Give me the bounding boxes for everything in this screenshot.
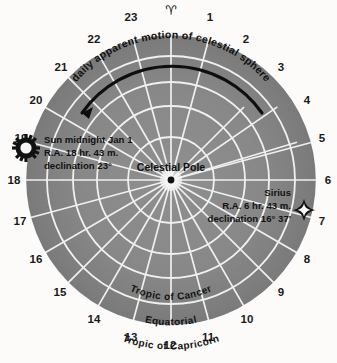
aries-symbol-icon: ♈ (165, 3, 177, 18)
hour-number: 9 (278, 286, 284, 298)
center-label: Celestial Pole (137, 161, 205, 173)
hour-number: 4 (304, 94, 311, 106)
hour-number: 17 (14, 215, 27, 227)
sirius-label-line2: R.A. 6 hr. 43 m. (222, 200, 291, 211)
hour-number: 7 (319, 215, 325, 227)
hour-number: 22 (88, 33, 101, 45)
hour-number: 13 (125, 331, 138, 343)
hour-number: 18 (8, 174, 21, 186)
sun-icon (12, 134, 40, 162)
hour-number: 10 (241, 313, 254, 325)
sirius-label-line1: Sirius (264, 187, 291, 198)
sun-label-line3: declination 23° (44, 160, 112, 171)
diagram-canvas: Celestial Pole daily apparent motion of … (0, 0, 337, 363)
hour-number: 3 (278, 61, 284, 73)
hour-number: 14 (88, 313, 101, 325)
sun-label-line1: Sun midnight Jan 1 (44, 134, 133, 145)
hour-number: 15 (54, 286, 67, 298)
hour-number: 1 (207, 11, 214, 23)
hour-number: 20 (30, 94, 43, 106)
hour-number: 5 (319, 132, 326, 144)
hour-number: 2 (243, 33, 249, 45)
hour-number: 21 (55, 61, 68, 73)
sirius-label-line3: declination 16° 37' (208, 213, 291, 224)
sun-label-line2: R.A. 18 hr. 43 m. (44, 147, 118, 158)
hour-number: 12 (164, 339, 177, 351)
celestial-sphere-diagram: Celestial Pole daily apparent motion of … (0, 0, 337, 363)
hour-number: 11 (202, 331, 215, 343)
hour-number: 8 (304, 253, 311, 265)
pole-dot (168, 177, 175, 184)
hour-number: 6 (325, 174, 331, 186)
hour-number: 23 (125, 11, 138, 23)
hour-number: 16 (30, 253, 43, 265)
